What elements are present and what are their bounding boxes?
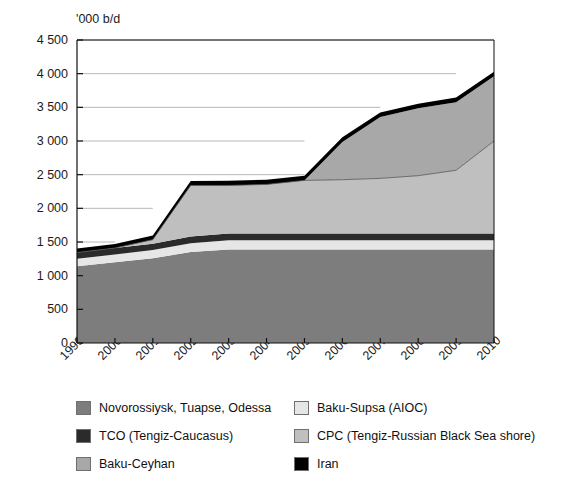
legend-label: CPC (Tengiz-Russian Black Sea shore) xyxy=(317,430,535,443)
legend-column-left: Novorossiysk, Tuapse, OdessaTCO (Tengiz-… xyxy=(76,394,271,478)
legend-swatch-icon xyxy=(76,429,91,443)
area-series-0 xyxy=(77,249,494,343)
legend-label: Iran xyxy=(317,458,339,471)
legend-swatch-icon xyxy=(294,429,309,443)
legend-item: Baku-Supsa (AIOC) xyxy=(294,394,535,422)
legend-swatch-icon xyxy=(294,401,309,415)
legend-item: Baku-Ceyhan xyxy=(76,450,271,478)
legend-swatch-icon xyxy=(76,401,91,415)
legend-item: CPC (Tengiz-Russian Black Sea shore) xyxy=(294,422,535,450)
legend-swatch-icon xyxy=(294,457,309,471)
legend-label: TCO (Tengiz-Caucasus) xyxy=(99,430,233,443)
legend-label: Baku-Supsa (AIOC) xyxy=(317,402,427,415)
chart-figure: '000 b/d 05001 0001 5002 0002 5003 0003 … xyxy=(0,0,562,490)
legend-label: Baku-Ceyhan xyxy=(99,458,175,471)
legend-column-right: Baku-Supsa (AIOC)CPC (Tengiz-Russian Bla… xyxy=(294,394,535,478)
legend-item: Novorossiysk, Tuapse, Odessa xyxy=(76,394,271,422)
legend-item: Iran xyxy=(294,450,535,478)
legend-swatch-icon xyxy=(76,457,91,471)
legend-label: Novorossiysk, Tuapse, Odessa xyxy=(99,402,271,415)
legend-item: TCO (Tengiz-Caucasus) xyxy=(76,422,271,450)
